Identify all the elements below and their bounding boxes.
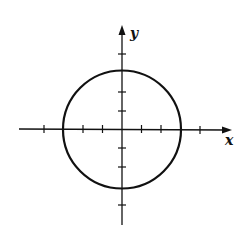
coordinate-plane: y x [0, 0, 240, 228]
x-axis-label: x [224, 132, 234, 148]
y-axis-label: y [129, 25, 139, 41]
y-axis-arrow-icon [119, 25, 126, 35]
y-axis [119, 25, 126, 225]
